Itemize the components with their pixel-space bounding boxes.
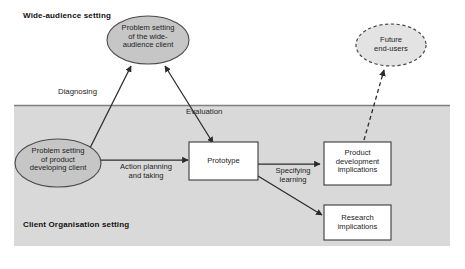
edge-evaluation-label: Evaluation bbox=[186, 108, 222, 117]
wide-audience-zone-label: Wide-audience setting bbox=[23, 11, 111, 20]
node-research-implications bbox=[324, 205, 391, 240]
node-product-development-implications bbox=[324, 142, 391, 185]
edge-specifying-learning-label: Specifying learning bbox=[266, 167, 320, 184]
node-future-end-users bbox=[356, 24, 426, 66]
diagram-canvas: Wide-audience setting Client Organisatio… bbox=[0, 0, 465, 269]
edge-diagnosing-label: Diagnosing bbox=[58, 88, 97, 97]
node-prototype bbox=[189, 142, 258, 180]
client-organisation-zone-label: Client Organisation setting bbox=[23, 220, 129, 229]
node-wide-audience-problem bbox=[107, 16, 189, 64]
edge-action-planning-and-taking-label: Action planning and taking bbox=[106, 163, 186, 180]
node-product-developing-problem bbox=[15, 139, 101, 187]
